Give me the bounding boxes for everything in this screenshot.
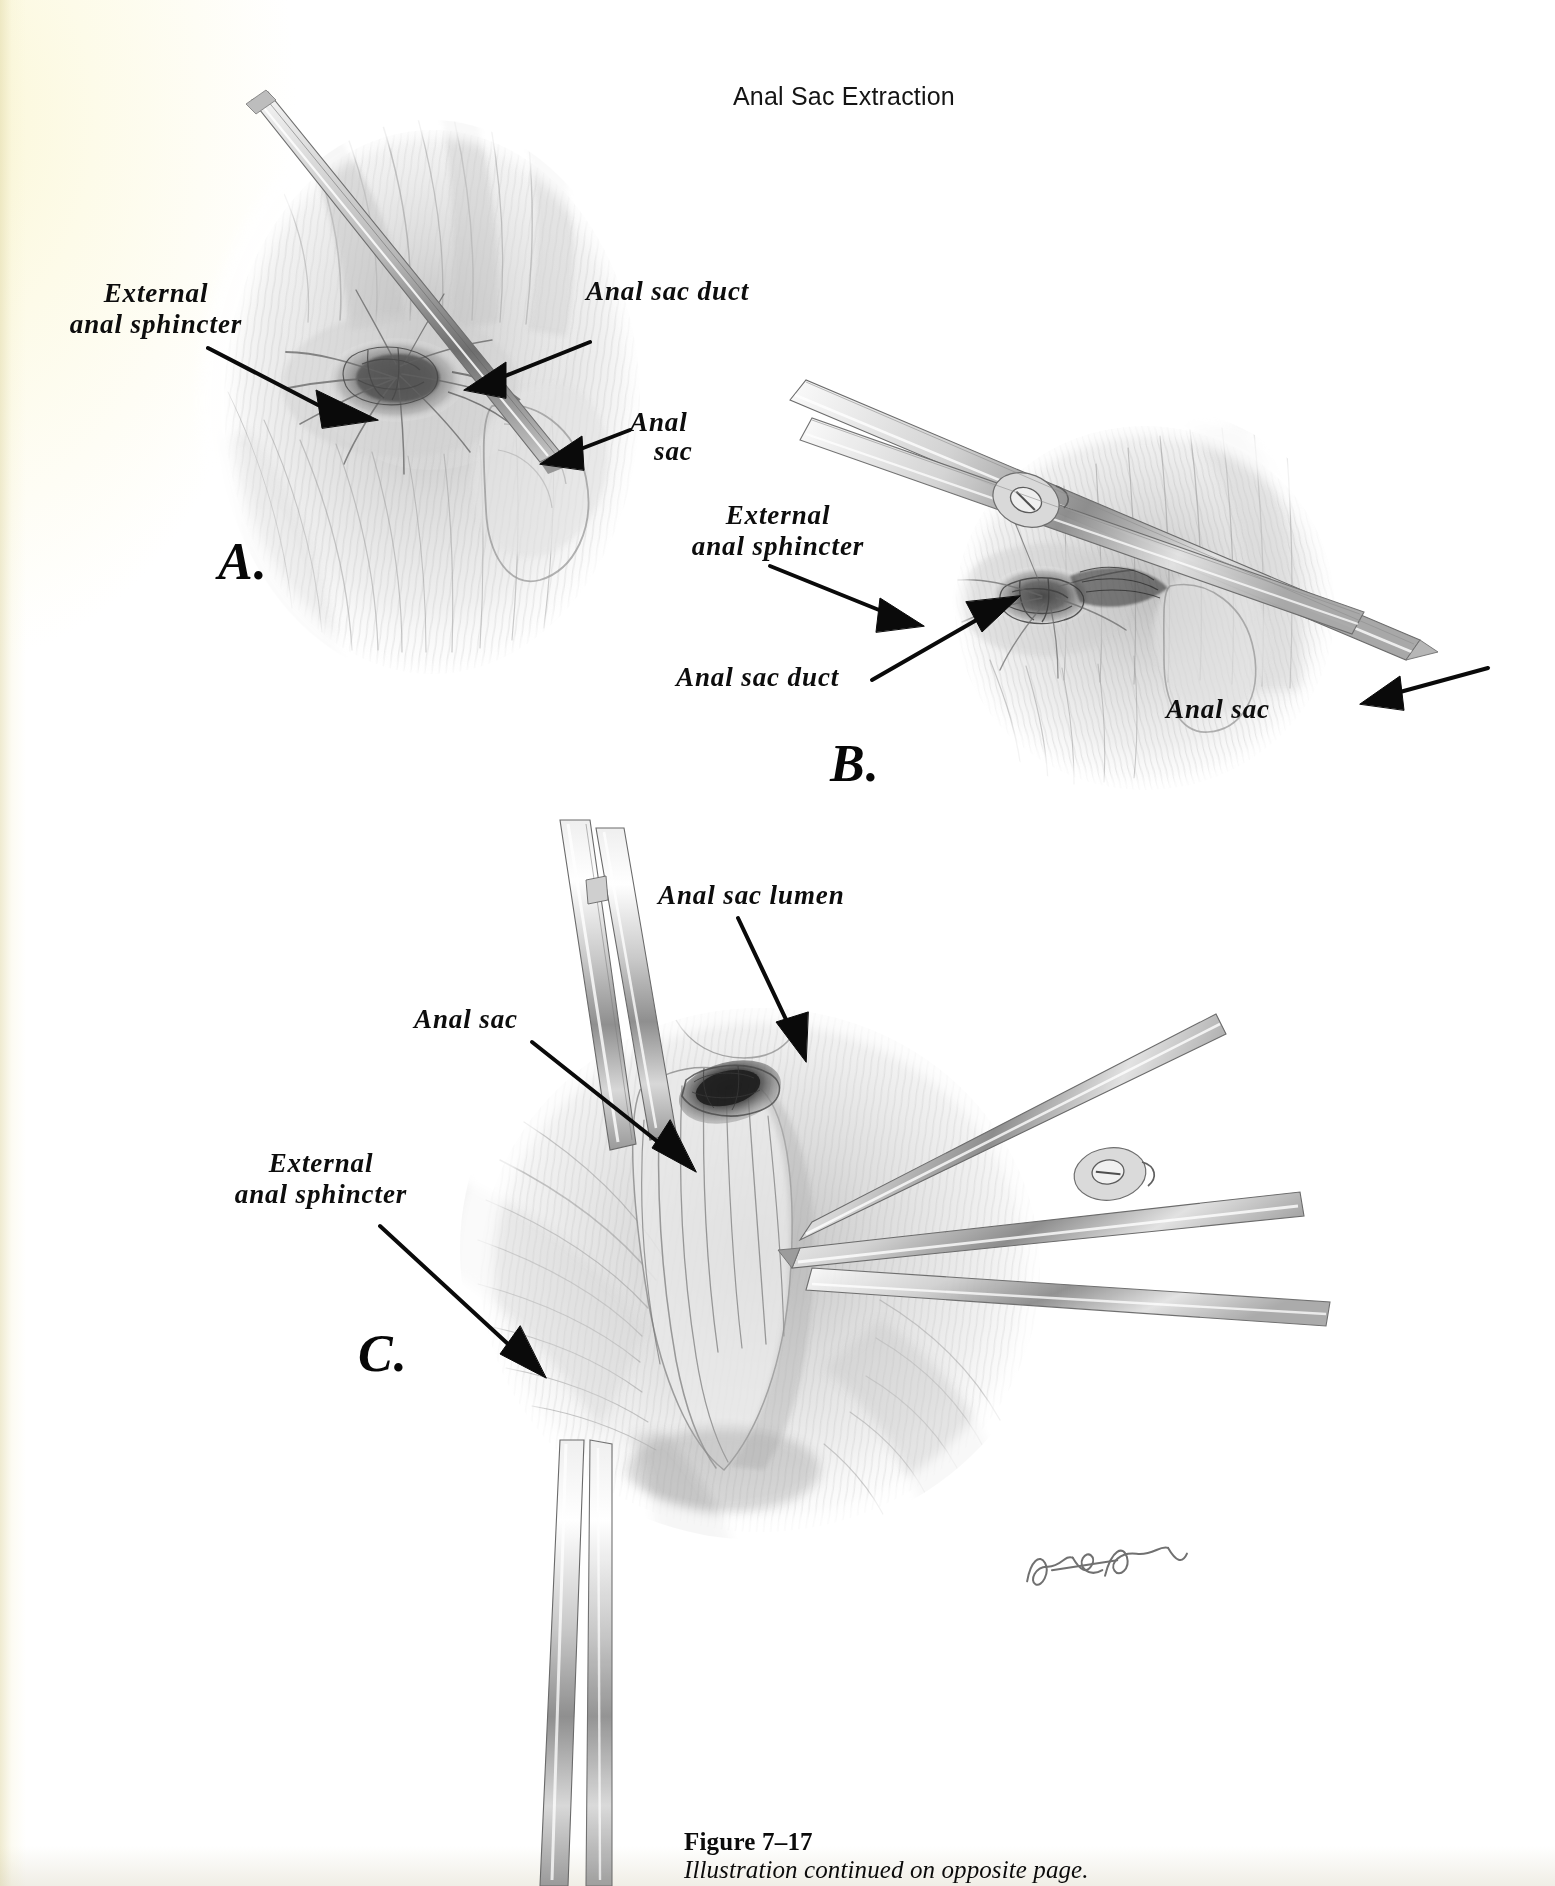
label-c-anal-sac-lumen: Anal sac lumen <box>658 880 845 911</box>
label-a-external-anal-sphincter: External anal sphincter <box>36 278 276 341</box>
figure-caption-subtitle: Illustration continued on opposite page. <box>684 1856 1089 1884</box>
label-line: anal sphincter <box>658 531 898 562</box>
label-line: External <box>658 500 898 531</box>
panel-letter-a: A. <box>218 532 268 591</box>
label-a-anal-sac: Anal sac <box>630 408 693 465</box>
label-b-external-anal-sphincter: External anal sphincter <box>658 500 898 563</box>
label-a-anal-sac-duct: Anal sac duct <box>586 276 749 307</box>
panel-letter-b: B. <box>830 734 880 793</box>
running-head: Anal Sac Extraction <box>733 82 955 111</box>
label-line: anal sphincter <box>196 1179 446 1210</box>
label-line: anal sphincter <box>36 309 276 340</box>
label-c-anal-sac: Anal sac <box>414 1004 518 1035</box>
figure-caption-title: Figure 7–17 <box>684 1828 813 1856</box>
label-line: sac <box>630 437 693 466</box>
label-line: External <box>196 1148 446 1179</box>
label-b-anal-sac: Anal sac <box>1166 694 1270 725</box>
label-line: Anal <box>630 408 693 437</box>
label-line: External <box>36 278 276 309</box>
label-c-external-anal-sphincter: External anal sphincter <box>196 1148 446 1211</box>
text-layer: Anal Sac Extraction External anal sphinc… <box>0 0 1555 1886</box>
label-b-anal-sac-duct: Anal sac duct <box>676 662 839 693</box>
panel-letter-c: C. <box>358 1324 408 1383</box>
